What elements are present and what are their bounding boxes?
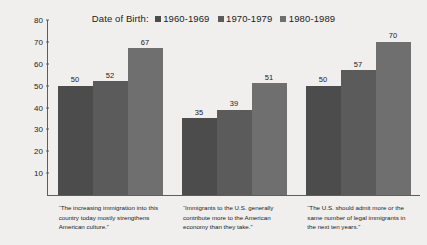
- bar-group: 505770: [296, 20, 420, 195]
- bar[interactable]: [341, 70, 376, 195]
- y-axis-tick: 60: [34, 59, 48, 68]
- plot-area: 8070605040302010 505267353951505770: [47, 20, 420, 196]
- bar[interactable]: [306, 86, 341, 195]
- bar-column[interactable]: 57: [341, 20, 376, 195]
- bar-value-label: 52: [106, 72, 114, 80]
- y-axis-tick: 80: [34, 16, 48, 25]
- bar[interactable]: [128, 48, 163, 195]
- category-caption: “Immigrants to the U.S. generally contri…: [171, 200, 295, 245]
- bar-column[interactable]: 50: [306, 20, 341, 195]
- category-caption-text: “Immigrants to the U.S. generally contri…: [183, 203, 284, 232]
- bar-value-label: 35: [195, 109, 203, 117]
- y-axis-tick-label: 40: [34, 103, 46, 112]
- y-axis-tick: 50: [34, 81, 48, 90]
- y-axis-tick: 10: [34, 169, 48, 178]
- category-caption: “The U.S. should admit more or the same …: [296, 200, 420, 245]
- bar-column[interactable]: 67: [128, 20, 163, 195]
- y-axis-tick-label: 60: [34, 59, 46, 68]
- y-axis-tick-label: 70: [34, 37, 46, 46]
- bar-column[interactable]: 35: [182, 20, 217, 195]
- bar[interactable]: [376, 42, 411, 195]
- y-axis-tick: 30: [34, 125, 48, 134]
- bar[interactable]: [58, 86, 93, 195]
- category-caption-text: “The U.S. should admit more or the same …: [307, 203, 408, 232]
- y-axis-tick-label: 20: [34, 147, 46, 156]
- bar-groups: 505267353951505770: [48, 20, 420, 195]
- bar[interactable]: [217, 110, 252, 195]
- bar-column[interactable]: 39: [217, 20, 252, 195]
- category-caption-text: “The increasing immigration into this co…: [59, 203, 160, 232]
- bar-value-label: 51: [265, 74, 273, 82]
- bar-value-label: 39: [230, 100, 238, 108]
- y-axis-tick-label: 80: [34, 16, 46, 25]
- category-caption: “The increasing immigration into this co…: [47, 200, 171, 245]
- bar-chart: Date of Birth: 1960-1969 1970-1979 1980-…: [0, 0, 427, 245]
- bar[interactable]: [93, 81, 128, 195]
- bar-value-label: 50: [319, 76, 327, 84]
- bar-column[interactable]: 70: [376, 20, 411, 195]
- bar-value-label: 67: [141, 39, 149, 47]
- y-axis-tick: 20: [34, 147, 48, 156]
- bar-value-label: 70: [389, 32, 397, 40]
- y-axis-tick-label: 50: [34, 81, 46, 90]
- y-axis-tick: 40: [34, 103, 48, 112]
- bar-group: 505267: [48, 20, 172, 195]
- y-axis-tick: 70: [34, 37, 48, 46]
- y-axis-tick-label: 30: [34, 125, 46, 134]
- bar-value-label: 57: [354, 61, 362, 69]
- category-captions: “The increasing immigration into this co…: [47, 200, 420, 245]
- bar[interactable]: [182, 118, 217, 195]
- bar-column[interactable]: 51: [252, 20, 287, 195]
- bar-column[interactable]: 50: [58, 20, 93, 195]
- bar-column[interactable]: 52: [93, 20, 128, 195]
- bar-value-label: 50: [71, 76, 79, 84]
- y-axis-tick-label: 10: [34, 169, 46, 178]
- bar[interactable]: [252, 83, 287, 195]
- bar-group: 353951: [172, 20, 296, 195]
